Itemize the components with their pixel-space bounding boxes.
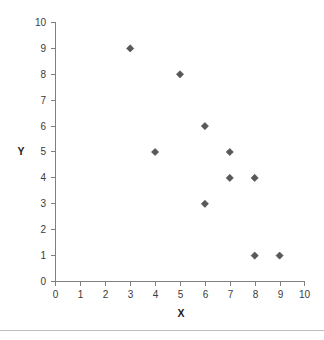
y-tick-label: 7 bbox=[40, 95, 46, 106]
y-tick-label: 6 bbox=[40, 121, 46, 132]
x-tick-label: 9 bbox=[278, 289, 284, 300]
x-axis-title: X bbox=[177, 307, 184, 319]
y-axis-title: Y bbox=[17, 145, 24, 157]
y-tick-label: 1 bbox=[40, 250, 46, 261]
x-tick-label: 3 bbox=[128, 289, 134, 300]
y-tick-label: 9 bbox=[40, 43, 46, 54]
scatter-chart: 10 9 8 7 6 5 4 3 2 1 0 0 1 2 3 4 5 6 7 8… bbox=[0, 0, 324, 340]
x-tick-label: 8 bbox=[253, 289, 259, 300]
y-tick-label: 2 bbox=[40, 224, 46, 235]
x-tick-label: 6 bbox=[203, 289, 209, 300]
y-tick-label: 3 bbox=[40, 198, 46, 209]
x-tick-label: 2 bbox=[103, 289, 109, 300]
y-tick-label: 4 bbox=[40, 172, 46, 183]
x-tick-label: 7 bbox=[228, 289, 234, 300]
chart-background bbox=[0, 0, 324, 340]
y-tick-label: 5 bbox=[40, 146, 46, 157]
y-tick-label: 0 bbox=[40, 276, 46, 287]
y-tick-label: 8 bbox=[40, 69, 46, 80]
x-tick-label: 0 bbox=[53, 289, 59, 300]
x-tick-label: 5 bbox=[178, 289, 184, 300]
x-tick-label: 1 bbox=[78, 289, 84, 300]
x-tick-label: 10 bbox=[299, 289, 311, 300]
x-tick-label: 4 bbox=[153, 289, 159, 300]
y-tick-label: 10 bbox=[35, 17, 47, 28]
